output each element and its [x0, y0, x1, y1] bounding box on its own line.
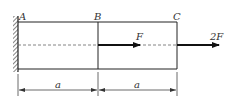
dimension-lines — [18, 72, 177, 96]
load-label-F: F — [135, 31, 144, 42]
bar-body — [18, 22, 177, 69]
load-label-2F: 2F — [209, 31, 224, 42]
point-label-B: B — [93, 11, 101, 22]
dimension-label-BC: a — [134, 79, 140, 90]
fixed-wall-support — [13, 16, 18, 72]
bar-diagram: A B C F 2F a a — [0, 0, 235, 106]
point-label-A: A — [18, 11, 26, 22]
point-label-C: C — [173, 11, 181, 22]
dimension-label-AB: a — [55, 79, 61, 90]
